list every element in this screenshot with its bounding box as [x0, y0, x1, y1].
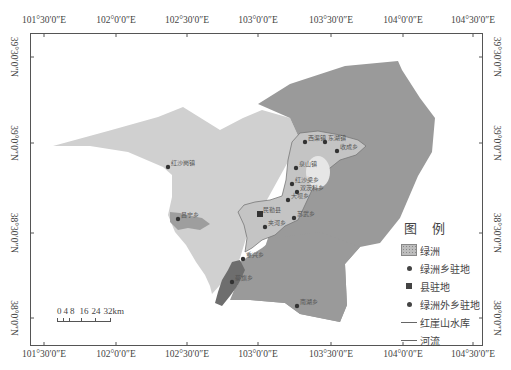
scale-bar-line: [57, 318, 111, 322]
place-label: 泉山镇: [299, 160, 317, 168]
latitude-label: 38°30′0″N: [492, 213, 502, 253]
longitude-label: 102°0′0″E: [96, 15, 135, 25]
township-marker: [303, 140, 307, 144]
township-marker: [323, 140, 327, 144]
place-label: 南湖乡: [300, 298, 318, 306]
legend-item-reservoir: 红崖山水库: [400, 313, 490, 331]
place-label: 蔡旗乡: [235, 274, 253, 282]
scale-label: 8: [70, 306, 75, 316]
dot-icon: [407, 302, 412, 307]
legend-item-outside-township: 绿洲外乡驻地: [400, 295, 490, 313]
longitude-label: 101°30′0″E: [22, 15, 66, 25]
township-marker: [241, 257, 245, 261]
township-marker: [263, 225, 267, 229]
legend-item-oasis: 绿洲: [400, 241, 490, 259]
legend-label: 河流: [420, 333, 440, 348]
legend-label: 绿洲外乡驻地: [420, 297, 480, 312]
legend-label: 县驻地: [420, 279, 450, 294]
longitude-label: 103°0′0″E: [238, 15, 277, 25]
line-icon: [401, 322, 417, 323]
township-marker: [294, 166, 298, 170]
longitude-label: 102°30′0″E: [165, 15, 209, 25]
longitude-label: 103°30′0″E: [309, 15, 353, 25]
longitude-label: 102°0′0″E: [96, 349, 135, 359]
scale-label: 0: [57, 306, 62, 316]
oasis-fill-icon: [401, 244, 417, 256]
place-label: 红沙梁乡: [295, 176, 319, 184]
latitude-label: 39°30′0″N: [492, 37, 502, 77]
place-label: 重兴乡: [246, 251, 264, 259]
place-label: 红沙岗镇: [171, 159, 195, 167]
scale-label: 4: [64, 306, 69, 316]
place-label: 夹河乡: [268, 219, 286, 227]
legend-item-oasis-township: 绿洲乡驻地: [400, 259, 490, 277]
township-marker: [295, 304, 299, 308]
township-marker: [230, 280, 234, 284]
latitude-label: 38°0′0″N: [492, 300, 502, 336]
scale-bar: 048162432km: [57, 306, 124, 316]
legend-item-county-seat: 县驻地: [400, 277, 490, 295]
legend-title: 图 例: [404, 218, 490, 237]
longitude-label: 104°0′0″E: [383, 15, 422, 25]
township-marker: [290, 182, 294, 186]
square-icon: [406, 283, 412, 289]
longitude-label: 104°30′0″E: [451, 15, 495, 25]
latitude-label: 38°30′0″N: [9, 213, 19, 253]
longitude-label: 104°0′0″E: [383, 349, 422, 359]
place-label: 昌宁乡: [181, 211, 199, 219]
township-marker: [292, 216, 296, 220]
legend-label: 绿洲乡驻地: [420, 261, 470, 276]
latitude-label: 39°0′0″N: [492, 125, 502, 161]
legend-item-river: 河流: [400, 331, 490, 349]
township-marker: [166, 165, 170, 169]
longitude-label: 102°30′0″E: [165, 349, 209, 359]
legend: 图 例 绿洲 绿洲乡驻地 县驻地 绿洲外乡驻地 红崖山水库 河流: [400, 218, 490, 349]
place-label: 双茨科乡: [300, 184, 324, 192]
scale-label: 32km: [104, 306, 125, 316]
place-label: 民勤县: [263, 206, 281, 214]
legend-label: 绿洲: [420, 243, 440, 258]
longitude-label: 104°30′0″E: [451, 349, 495, 359]
line-icon: [401, 340, 417, 341]
latitude-label: 38°0′0″N: [9, 300, 19, 336]
latitude-label: 39°30′0″N: [9, 37, 19, 77]
place-label: 东湖镇: [328, 134, 346, 142]
township-marker: [286, 198, 290, 202]
place-label: 苏武乡: [297, 210, 315, 218]
township-marker: [335, 149, 339, 153]
longitude-label: 103°0′0″E: [238, 349, 277, 359]
scale-label: 24: [92, 306, 101, 316]
legend-label: 红崖山水库: [420, 315, 470, 330]
township-marker: [176, 217, 180, 221]
latitude-label: 39°0′0″N: [9, 125, 19, 161]
dot-icon: [407, 266, 412, 271]
scale-label: 16: [80, 306, 89, 316]
longitude-label: 103°30′0″E: [309, 349, 353, 359]
place-label: 收成乡: [340, 143, 358, 151]
place-label: 大坝乡: [291, 192, 309, 200]
longitude-label: 101°30′0″E: [22, 349, 66, 359]
